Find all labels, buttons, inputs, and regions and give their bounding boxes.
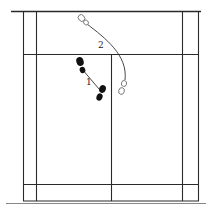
step-label-2: 2 <box>98 40 104 50</box>
court-diagram: 1 2 <box>0 0 212 213</box>
step-label-1: 1 <box>86 77 92 87</box>
footwork-path-2 <box>87 24 125 80</box>
outline-footprint-start <box>77 13 90 26</box>
outline-footprint-end <box>118 80 127 95</box>
filled-footprint-start <box>75 56 86 74</box>
